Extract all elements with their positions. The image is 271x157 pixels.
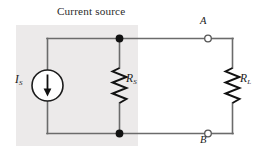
source-resistor-symbol-text: R (126, 72, 133, 84)
terminal-a-text: A (200, 15, 206, 26)
load-resistor-subscript: L (247, 78, 251, 86)
current-source-label: IS (15, 74, 22, 86)
load-resistor-label: RL (240, 73, 251, 85)
terminal-b-label: B (200, 135, 206, 146)
terminal-a-label: A (200, 16, 206, 27)
terminal-a-circle[interactable] (205, 35, 212, 42)
circuit-diagram: Current source IS RS RL A B (0, 0, 271, 157)
terminal-b-text: B (200, 134, 206, 145)
source-resistor-label: RS (126, 73, 137, 85)
load-resistor-symbol (226, 68, 240, 103)
current-source-subscript: S (19, 79, 23, 87)
junction-dot-top (116, 35, 124, 43)
load-resistor-symbol-text: R (240, 72, 247, 84)
figure-title: Current source (57, 6, 125, 17)
ideal-current-source-symbol (32, 70, 63, 101)
junction-dot-bottom (116, 130, 124, 138)
source-resistor-subscript: S (133, 78, 137, 86)
